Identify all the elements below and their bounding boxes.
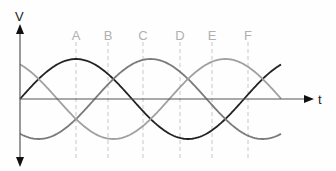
three-phase-diagram: ABCDEF V t xyxy=(0,0,336,171)
marker-label-d: D xyxy=(175,28,184,43)
marker-label-a: A xyxy=(72,28,81,43)
marker-label-c: C xyxy=(138,28,147,43)
marker-lines: ABCDEF xyxy=(72,28,252,158)
y-axis-label: V xyxy=(15,9,24,24)
x-axis-label: t xyxy=(318,92,322,107)
x-axis-arrow-icon xyxy=(304,95,314,103)
marker-label-b: B xyxy=(104,28,113,43)
diagram-canvas: ABCDEF V t xyxy=(0,0,336,171)
marker-label-f: F xyxy=(244,28,252,43)
marker-label-e: E xyxy=(208,28,217,43)
y-axis-up-arrow-icon xyxy=(16,24,24,34)
y-axis-down-arrow-icon xyxy=(16,157,24,167)
